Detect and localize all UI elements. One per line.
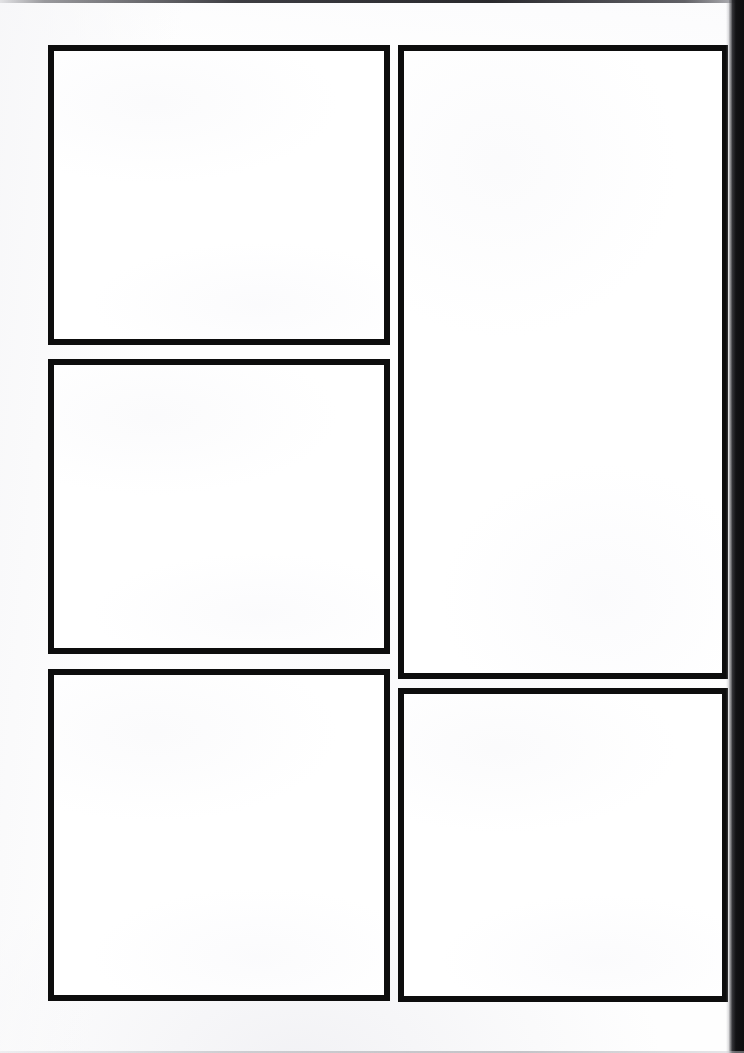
comic-panel-5[interactable]: [398, 688, 728, 1002]
comic-panel-1[interactable]: [48, 45, 390, 345]
comic-panel-3[interactable]: [48, 669, 390, 1001]
comic-panel-4[interactable]: [398, 45, 728, 679]
top-scan-line-artifact: [0, 0, 744, 3]
right-scan-edge-artifact: [726, 0, 744, 1053]
comic-page: [0, 0, 744, 1053]
comic-panel-2[interactable]: [48, 359, 390, 654]
